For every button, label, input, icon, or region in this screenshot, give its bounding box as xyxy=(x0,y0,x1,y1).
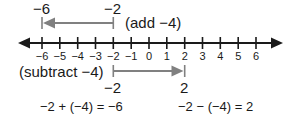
add-caption: (add −4) xyxy=(125,15,181,30)
number-line-axis xyxy=(18,37,283,49)
tick-label: 1 xyxy=(164,51,170,62)
add-arrow-end-label: −6 xyxy=(33,1,50,16)
subtract-arrow xyxy=(113,65,184,77)
tick-label: −2 xyxy=(107,51,120,62)
axis-left-arrow-icon xyxy=(18,38,30,49)
subtract-arrow-end-label: 2 xyxy=(180,80,188,95)
addition-equation: −2 + (−4) = −6 xyxy=(40,100,123,113)
subtraction-equation: −2 − (−4) = 2 xyxy=(178,100,253,113)
arrowhead-right-icon xyxy=(172,66,184,77)
subtract-arrow-start-label: −2 xyxy=(104,80,121,95)
tick-label: −4 xyxy=(71,51,84,62)
add-arrow xyxy=(42,17,113,29)
tick-label: −1 xyxy=(125,51,138,62)
tick-label: 5 xyxy=(235,51,241,62)
tick-label: 3 xyxy=(199,51,205,62)
tick-label: 2 xyxy=(182,51,188,62)
tick-label: 0 xyxy=(146,51,152,62)
tick-label: 4 xyxy=(217,51,223,62)
tick-label: 6 xyxy=(253,51,259,62)
add-arrow-start-label: −2 xyxy=(104,1,121,16)
tick-label: −5 xyxy=(54,51,67,62)
axis-right-arrow-icon xyxy=(271,38,283,49)
subtract-caption: (subtract −4) xyxy=(19,64,104,79)
tick-label: −6 xyxy=(36,51,49,62)
tick-label: −3 xyxy=(89,51,102,62)
arrowhead-left-icon xyxy=(43,18,55,29)
